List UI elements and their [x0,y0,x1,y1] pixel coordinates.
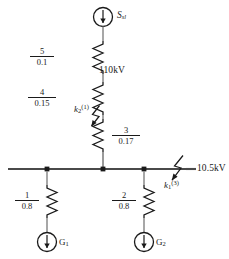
impedance-3-label: 3 0.17 [112,126,140,146]
impedance-g2-zigzag [144,185,154,218]
fault-k1-label: k1(3) [164,180,179,191]
circuit-diagram: Ssl 5 0.1 110kV 4 0.15 k2(1) 3 0.17 10.5… [0,0,229,259]
impedance-5-denominator: 0.1 [30,56,54,66]
impedance-5-numerator: 5 [30,47,54,56]
source-symbol [94,8,113,27]
source-label: Ssl [117,11,126,21]
generator-1-label: G1 [59,238,69,248]
impedance-5-label: 5 0.1 [30,47,54,67]
fault-k2-label: k2(1) [74,104,89,115]
voltage-label-hv: 110kV [99,66,125,76]
impedance-g2-denominator: 0.8 [112,200,136,210]
impedance-g2-label: 2 0.8 [112,191,136,211]
busbar-node-2 [101,167,106,172]
impedance-4-label: 4 0.15 [28,88,56,108]
impedance-g1-numerator: 1 [15,191,39,200]
impedance-3-numerator: 3 [112,126,140,135]
busbar-node-1 [45,167,50,172]
impedance-g1-label: 1 0.8 [15,191,39,211]
impedance-4-zigzag [93,82,103,115]
impedance-4-numerator: 4 [28,88,56,97]
generator-1-label-sub: 1 [66,240,69,247]
impedance-g1-zigzag [47,185,57,218]
generator-1-symbol [38,233,57,252]
source-label-sub: sl [122,13,126,20]
impedance-g2-numerator: 2 [112,191,136,200]
busbar-node-3 [142,167,147,172]
impedance-3-denominator: 0.17 [112,135,140,145]
impedance-4-denominator: 0.15 [28,97,56,107]
generator-2-label: G2 [156,238,166,248]
fault-k1-label-sup: (3) [171,179,179,186]
generator-2-label-sub: 2 [163,240,166,247]
impedance-g1-denominator: 0.8 [15,200,39,210]
generator-2-symbol [135,233,154,252]
voltage-label-lv: 10.5kV [197,164,226,174]
fault-k2-label-sup: (1) [81,103,89,110]
